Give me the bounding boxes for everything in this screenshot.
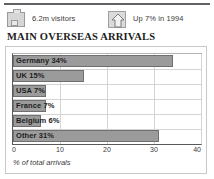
chart-bar-label: Belgium 6% [16,116,60,125]
chart-bar-row: UK 15% [13,69,201,84]
page-title: MAIN OVERSEAS ARRIVALS [7,31,155,42]
chart-bar-row: Germany 34% [13,54,201,69]
chart-container: Germany 34%UK 15%USA 7%France 7%Belgium … [5,46,207,174]
x-tick-label: 30 [150,146,158,153]
stat-strip: 6.2m visitors Up 7% in 1994 [4,7,210,29]
chart-plot-area: Germany 34%UK 15%USA 7%France 7%Belgium … [12,53,202,145]
chart-x-axis: 010203040 [12,146,202,157]
chart-bar-row: Other 31% [13,129,201,144]
stat-visitors: 6.2m visitors [7,7,75,29]
chart-bar-row: France 7% [13,99,201,114]
chart-x-axis-label: % of total arrivals [13,158,71,167]
chart-bar-label: Other 31% [16,131,54,140]
infographic-panel: 6.2m visitors Up 7% in 1994 MAIN OVERSEA… [0,0,214,179]
up-arrow-icon [108,9,127,28]
chart-bar-label: UK 15% [16,71,45,80]
stat-growth-label: Up 7% in 1994 [133,14,184,23]
chart-bar-label: France 7% [16,101,54,110]
stat-visitors-label: 6.2m visitors [32,14,75,23]
chart-bar-row: USA 7% [13,84,201,99]
chart-bar-row: Belgium 6% [13,114,201,129]
x-tick-label: 40 [193,146,201,153]
chart-bars: Germany 34%UK 15%USA 7%France 7%Belgium … [13,54,201,144]
top-divider [4,3,210,5]
chart-bar-label: Germany 34% [16,56,67,65]
chart-bar-label: USA 7% [16,86,45,95]
suitcase-icon [7,9,26,28]
x-tick-label: 10 [56,146,64,153]
x-tick-label: 0 [12,146,16,153]
x-tick-label: 20 [103,146,111,153]
stat-growth: Up 7% in 1994 [108,7,184,29]
gridline [201,54,202,144]
